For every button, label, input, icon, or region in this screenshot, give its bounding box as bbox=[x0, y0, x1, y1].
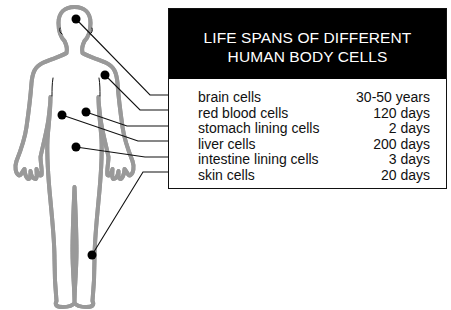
list-item: brain cells 30-50 years bbox=[169, 89, 446, 105]
list-item: red blood cells 120 days bbox=[169, 105, 446, 121]
legend-box: LIFE SPANS OF DIFFERENT HUMAN BODY CELLS… bbox=[168, 8, 447, 189]
cell-label: stomach lining cells bbox=[198, 120, 319, 136]
list-item: stomach lining cells 2 days bbox=[169, 120, 446, 136]
cell-lifespan-diagram: LIFE SPANS OF DIFFERENT HUMAN BODY CELLS… bbox=[0, 0, 451, 310]
cell-lifespan: 120 days bbox=[373, 105, 430, 121]
dot-stomach bbox=[82, 108, 91, 117]
cell-label: intestine lining cells bbox=[198, 151, 319, 167]
cell-lifespan: 2 days bbox=[389, 120, 430, 136]
cell-label: red blood cells bbox=[198, 105, 288, 121]
title-header: LIFE SPANS OF DIFFERENT HUMAN BODY CELLS bbox=[169, 9, 446, 79]
list-item: liver cells 200 days bbox=[169, 136, 446, 152]
list-item: intestine lining cells 3 days bbox=[169, 151, 446, 167]
cell-label: skin cells bbox=[198, 167, 255, 183]
cell-lifespan: 20 days bbox=[381, 167, 430, 183]
dot-red-blood bbox=[101, 71, 110, 80]
title-line-1: LIFE SPANS OF DIFFERENT bbox=[169, 28, 446, 47]
cell-lifespan: 3 days bbox=[389, 151, 430, 167]
body-outline bbox=[15, 7, 133, 307]
title-line-2: HUMAN BODY CELLS bbox=[169, 47, 446, 66]
cell-label: brain cells bbox=[198, 89, 261, 105]
cell-lifespan: 30-50 years bbox=[356, 89, 430, 105]
dot-liver bbox=[58, 111, 67, 120]
list-item: skin cells 20 days bbox=[169, 167, 446, 183]
dot-skin bbox=[88, 251, 97, 260]
cell-lifespan: 200 days bbox=[373, 136, 430, 152]
dot-brain bbox=[72, 15, 81, 24]
dot-intestine bbox=[72, 143, 81, 152]
cell-label: liver cells bbox=[198, 136, 256, 152]
